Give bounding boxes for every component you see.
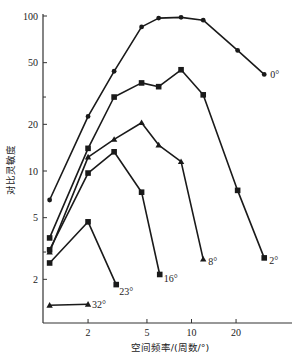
y-tick-label: 5 [33,212,38,223]
square-marker [47,235,53,241]
triangle-marker [138,119,144,125]
x-ticks: 251020 [86,319,242,338]
square-marker [85,219,91,225]
x-tick-label: 10 [187,327,197,338]
square-marker [261,255,267,261]
square-marker [113,282,119,288]
circle-marker [156,16,161,21]
circle-marker [179,15,184,20]
circle-marker [262,72,267,77]
square-marker [47,260,53,266]
square-marker [139,189,145,195]
square-marker [157,272,163,278]
series-16deg: 16° [47,149,178,284]
y-tick-label: 10 [28,166,38,177]
series-32deg: 32° [46,299,106,310]
x-tick-label: 2 [86,327,91,338]
y-tick-label: 50 [28,57,38,68]
circle-marker [201,18,206,23]
circle-marker [139,25,144,30]
y-tick-label: 2 [33,274,38,285]
y-tick-label: 100 [23,11,38,22]
series-label: 23° [119,286,133,297]
circle-marker [86,114,91,119]
series-label: 2° [269,255,278,266]
square-marker [200,92,206,98]
square-marker [235,188,241,194]
circle-marker [47,198,52,203]
x-tick-label: 20 [231,327,241,338]
square-marker [178,67,184,73]
circle-marker [112,69,117,74]
contrast-sensitivity-chart: 25102050100 251020 0°2°8°16°23°32° 对比灵敏度… [0,0,298,363]
series-label: 0° [270,69,279,80]
series-label: 32° [92,299,106,310]
triangle-marker [200,256,206,262]
square-marker [85,170,91,176]
square-marker [156,84,162,90]
series-label: 8° [208,256,217,267]
circle-marker [235,48,240,53]
x-axis-title: 空间频率/(周数/°) [131,342,210,353]
y-axis-title: 对比灵敏度 [5,145,16,195]
series-label: 16° [164,273,178,284]
series-2deg: 2° [47,67,278,266]
series-8deg: 8° [46,119,217,267]
y-tick-label: 20 [28,119,38,130]
square-marker [111,94,117,100]
square-marker [111,149,117,155]
series-line [50,304,89,305]
x-tick-label: 5 [144,327,149,338]
series-group: 0°2°8°16°23°32° [46,15,279,310]
square-marker [85,146,91,152]
square-marker [139,80,145,86]
square-marker [47,247,53,253]
series-0deg: 0° [47,15,279,202]
